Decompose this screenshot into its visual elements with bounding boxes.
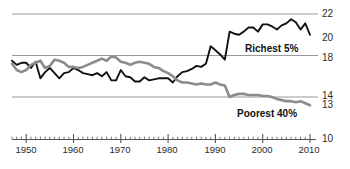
chart-container: 22 20 18 14 13 10 1950 1960 1970 1980 19… [0, 0, 350, 169]
y-tick-label-13: 13 [322, 100, 333, 110]
x-tick-label-1960: 1960 [62, 145, 83, 155]
x-tick-label-1980: 1980 [156, 145, 177, 155]
y-tick-label-22: 22 [322, 9, 333, 19]
x-tick-label-1970: 1970 [109, 145, 130, 155]
y-tick-label-10: 10 [322, 134, 333, 144]
x-tick-label-1990: 1990 [204, 145, 225, 155]
series-label-richest: Richest 5% [245, 43, 298, 54]
series-line-poorest-40 [12, 57, 310, 106]
series-label-poorest: Poorest 40% [237, 108, 297, 119]
x-tick-label-2000: 2000 [251, 145, 272, 155]
x-tick-label-1950: 1950 [15, 145, 36, 155]
x-tick-label-2010: 2010 [298, 145, 319, 155]
y-tick-label-18: 18 [322, 53, 333, 63]
y-tick-label-20: 20 [322, 33, 333, 43]
